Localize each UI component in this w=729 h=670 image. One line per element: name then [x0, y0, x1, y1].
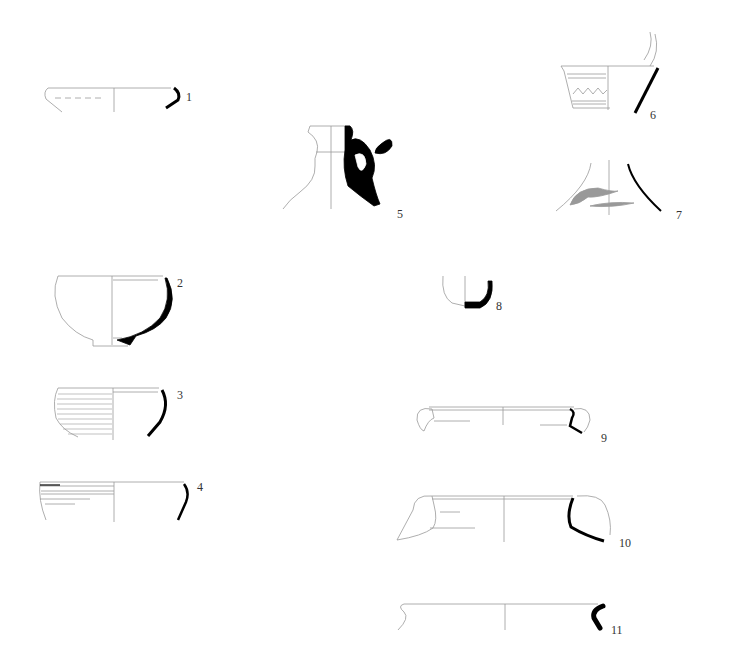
- figure-label-8: 8: [496, 300, 502, 312]
- figure-label-4: 4: [197, 481, 203, 493]
- vessel-1-drawing: [45, 88, 179, 112]
- figure-label-1: 1: [186, 91, 192, 103]
- figure-label-9: 9: [601, 432, 607, 444]
- figure-label-6: 6: [650, 109, 656, 121]
- figure-label-2: 2: [177, 277, 183, 289]
- vessel-4-drawing: [40, 482, 188, 522]
- figure-label-5: 5: [397, 208, 403, 220]
- vessel-8-drawing: [443, 276, 493, 308]
- vessel-6-drawing: [561, 32, 658, 113]
- figure-label-7: 7: [676, 209, 682, 221]
- vessel-9-drawing: [417, 407, 590, 433]
- vessel-11-drawing: [398, 604, 603, 630]
- vessel-2-drawing: [55, 276, 172, 346]
- figure-label-3: 3: [177, 389, 183, 401]
- vessel-10-drawing: [397, 496, 610, 542]
- vessel-5-drawing: [283, 126, 392, 209]
- pottery-plate: 1 2 3 4 5 6 7 8 9 10 11: [0, 0, 729, 670]
- vessel-7-drawing: [556, 160, 661, 215]
- figure-label-11: 11: [611, 624, 623, 636]
- figure-label-10: 10: [619, 537, 631, 549]
- vessel-3-drawing: [54, 388, 165, 440]
- pottery-drawings: [0, 0, 729, 670]
